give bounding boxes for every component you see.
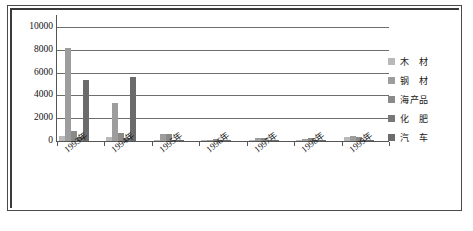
legend-label: 汽 车 [400,131,429,144]
legend-swatch-icon [388,96,395,103]
legend-item[interactable]: 海产品 [388,90,456,109]
chart-legend: 木 材钢 材海产品化 肥汽 车 [388,52,456,147]
plot-area [57,27,389,142]
legend-swatch-icon [388,115,395,122]
legend-swatch-icon [388,77,395,84]
y-axis-tick-label: 8000 [7,45,53,54]
bar-group [106,27,136,141]
y-axis-tick-label: 2000 [7,113,53,122]
bar-group [296,27,326,141]
y-axis-tick-label: 0 [7,136,53,145]
bar-group [154,27,184,141]
legend-label: 钢 材 [400,74,429,87]
bar-group [201,27,231,141]
y-axis-line [56,15,57,142]
legend-swatch-icon [388,58,395,65]
legend-swatch-icon [388,134,395,141]
legend-item[interactable]: 汽 车 [388,128,456,147]
y-axis-tick-label: 6000 [7,68,53,77]
legend-label: 木 材 [400,55,429,68]
legend-label: 化 肥 [400,112,429,125]
bar-group [249,27,279,141]
legend-item[interactable]: 化 肥 [388,109,456,128]
legend-label: 海产品 [400,93,429,106]
y-axis-tick-label: 4000 [7,90,53,99]
legend-item[interactable]: 钢 材 [388,71,456,90]
legend-item[interactable]: 木 材 [388,52,456,71]
y-axis-tick-label: 10000 [7,22,53,31]
chart-figure: 0200040006000800010000 1993年1994年1995年19… [0,0,473,231]
bar-group [344,27,374,141]
x-axis-labels: 1993年1994年1995年1996年1997年1998年1999年 [57,145,397,190]
bar-group [59,27,89,141]
bar [65,48,71,141]
y-axis: 0200040006000800010000 [3,27,53,142]
